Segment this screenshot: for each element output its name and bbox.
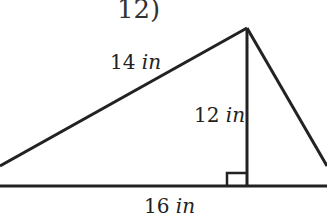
base-unit: in — [176, 194, 195, 218]
left-side — [0, 28, 247, 166]
right-side — [247, 28, 327, 166]
base-value: 16 — [144, 194, 169, 218]
side-value: 14 — [110, 50, 135, 74]
right-angle-marker — [227, 173, 247, 186]
height-value: 12 — [194, 103, 219, 127]
height-unit: in — [226, 103, 245, 127]
height-label-12: 12 in — [194, 105, 245, 125]
triangle-diagram — [0, 0, 327, 220]
side-label-14: 14 in — [110, 52, 161, 72]
base-label-16: 16 in — [144, 196, 195, 216]
side-unit: in — [142, 50, 161, 74]
